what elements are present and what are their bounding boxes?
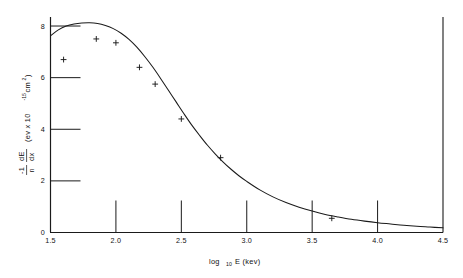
x-tick-label-2.5: 2.5	[176, 236, 187, 245]
x-tick-label-2.0: 2.0	[111, 236, 122, 245]
y-axis-units-open: (ev x 10	[23, 113, 32, 142]
y-axis-dx: dx	[27, 153, 36, 161]
x-tick-label-3.0: 3.0	[241, 236, 252, 245]
x-tick-label-4.5: 4.5	[438, 236, 449, 245]
y-tick-label-8: 8	[41, 22, 45, 31]
x-axis-title-base: log	[209, 257, 220, 266]
x-axis-title: log 10 E (kev)	[209, 257, 261, 267]
stopping-power-chart: 1.52.02.53.03.54.04.5 02468 log 10 E (ke…	[0, 0, 463, 278]
x-tick-label-3.5: 3.5	[307, 236, 318, 245]
y-tick-label-0: 0	[41, 228, 45, 237]
y-axis-units-exponent: -15	[21, 93, 27, 101]
figure-container: 1.52.02.53.03.54.04.5 02468 log 10 E (ke…	[0, 0, 463, 278]
y-axis-n: n	[27, 168, 36, 172]
y-axis-dE: dE	[17, 151, 26, 161]
x-tick-label-4.0: 4.0	[372, 236, 383, 245]
x-tick-label-1.5: 1.5	[45, 236, 56, 245]
y-axis-neg-one: -1	[17, 167, 26, 174]
x-axis-title-rest: E (kev)	[235, 257, 261, 266]
y-tick-label-4: 4	[41, 125, 45, 134]
y-tick-label-6: 6	[41, 73, 45, 82]
y-tick-label-2: 2	[41, 176, 45, 185]
y-axis-units-tail: )	[23, 74, 32, 77]
y-axis-units-close: cm	[23, 82, 32, 92]
chart-background	[0, 0, 463, 278]
x-axis-title-subscript: 10	[226, 261, 232, 267]
